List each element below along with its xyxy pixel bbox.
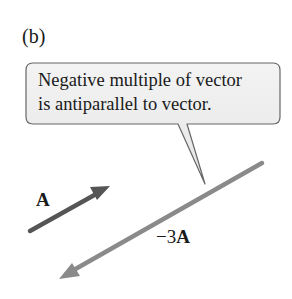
vector-neg3a-variable: A [176, 226, 190, 247]
callout-line-1: Negative multiple of vector [38, 68, 278, 92]
vector-neg3a-label: −3A [156, 227, 190, 247]
vector-a-label: A [36, 190, 50, 210]
callout-line-2: is antiparallel to vector. [38, 92, 278, 116]
vector-diagram [0, 0, 292, 299]
callout-text: Negative multiple of vector is antiparal… [38, 68, 278, 116]
vector-neg3a-coefficient: −3 [156, 226, 176, 247]
vector-neg3a-arrow [59, 163, 262, 279]
